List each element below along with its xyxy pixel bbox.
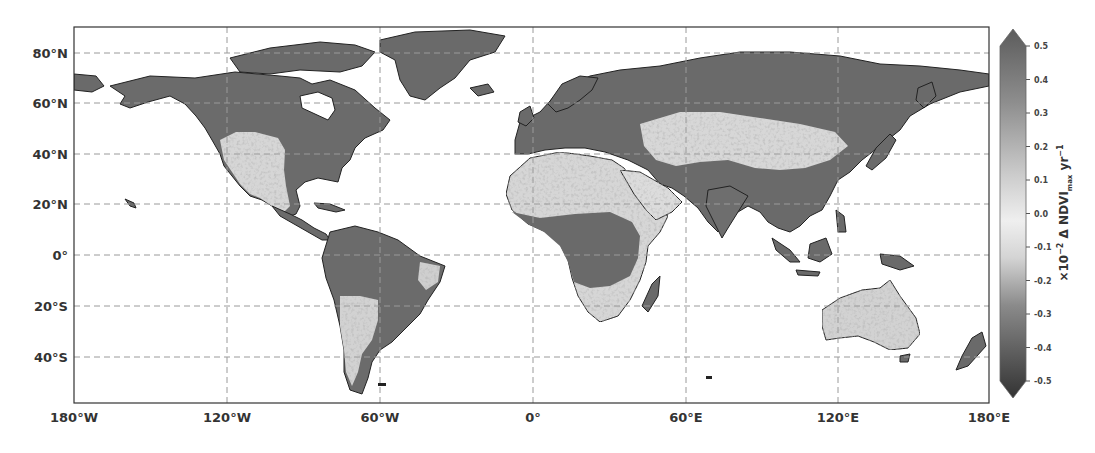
lon-tick-60w: 60°W: [361, 410, 400, 425]
lat-tick-80n: 80°N: [33, 46, 68, 61]
lon-tick-180e: 180°E: [968, 410, 1011, 425]
kerguelen: [706, 376, 712, 379]
colorbar-tick: -0.3: [1034, 310, 1052, 319]
lon-tick-60e: 60°E: [669, 410, 702, 425]
lat-tick-40n: 40°N: [33, 147, 68, 162]
colorbar-body: [1000, 29, 1026, 398]
lon-tick-0: 0°: [525, 410, 541, 425]
world-map: [0, 0, 1095, 453]
colorbar-tick: -0.1: [1034, 243, 1052, 252]
lon-tick-120e: 120°E: [817, 410, 860, 425]
colorbar-tick: 0.1: [1034, 176, 1048, 185]
tasmania: [900, 354, 910, 362]
lat-tick-20n: 20°N: [33, 197, 68, 212]
ndvi-trend-map-figure: 80°N 60°N 40°N 20°N 0° 20°S 40°S 180°W 1…: [0, 0, 1095, 453]
colorbar-tick: 0.0: [1034, 209, 1048, 218]
colorbar-tick: -0.2: [1034, 276, 1052, 285]
lon-tick-180w: 180°W: [50, 410, 98, 425]
colorbar-tick: -0.4: [1034, 343, 1052, 352]
lon-tick-120w: 120°W: [203, 410, 251, 425]
falklands: [378, 383, 386, 386]
lat-tick-20s: 20°S: [34, 299, 68, 314]
colorbar-tick: -0.5: [1034, 377, 1052, 386]
colorbar-title: ×10−2 Δ NDVImax yr−1: [1056, 144, 1073, 281]
colorbar: [1000, 29, 1030, 398]
lat-tick-0: 0°: [52, 248, 68, 263]
colorbar-tick: 0.4: [1034, 75, 1048, 84]
lat-tick-40s: 40°S: [34, 350, 68, 365]
lat-tick-60n: 60°N: [33, 96, 68, 111]
colorbar-tick: 0.3: [1034, 109, 1048, 118]
colorbar-tick: 0.5: [1034, 42, 1048, 51]
colorbar-tick: 0.2: [1034, 142, 1048, 151]
